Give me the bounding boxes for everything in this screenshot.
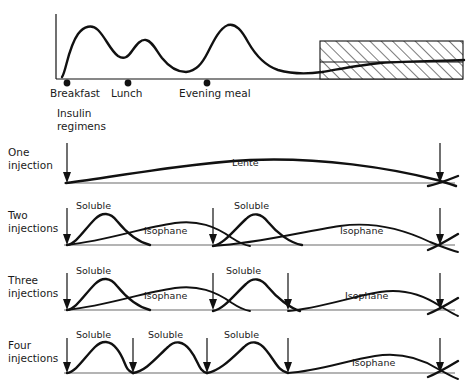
meal-dot-evening-meal	[204, 80, 211, 87]
regimen-label-three-injections-line2: injections	[8, 287, 58, 299]
meal-markers	[64, 80, 211, 87]
insulin-curve-soluble-2a	[67, 214, 150, 245]
regimen-label-two-injections-line1: Two	[7, 209, 28, 221]
regimen-label-three-injections-line1: Three	[7, 274, 38, 286]
regimen-label-four-injections-line1: Four	[8, 339, 32, 351]
injection-arrow-four-injections-1	[63, 338, 71, 373]
section-heading-line1: Insulin	[57, 107, 91, 119]
section-heading-line2: regimens	[57, 120, 106, 132]
meal-dot-breakfast	[64, 80, 71, 87]
insulin-regimens-figure: Breakfast Lunch Evening meal Insulin reg…	[0, 0, 476, 387]
regimen-row-two-injections: Two injections Soluble Isophane Soluble …	[7, 200, 458, 252]
injection-arrow-one-injection-2	[436, 143, 444, 183]
insulin-curve-soluble-4a	[67, 342, 133, 373]
insulin-label-isophane-2b: Isophane	[340, 225, 383, 236]
section-heading-insulin-regimens: Insulin regimens	[57, 107, 106, 132]
injection-arrow-three-injections-1	[63, 273, 71, 310]
insulin-curve-soluble-4c	[207, 342, 288, 373]
regimen-label-one-injection-line1: One	[8, 146, 29, 158]
insulin-label-isophane-3a: Isophane	[144, 290, 187, 301]
injection-arrow-one-injection-1	[63, 143, 71, 183]
insulin-label-isophane-2a: Isophane	[144, 225, 187, 236]
insulin-label-isophane-3b: Isophane	[345, 290, 388, 301]
regimen-label-two-injections-line2: injections	[8, 222, 58, 234]
insulin-label-lente: Lente	[232, 157, 259, 168]
meal-label-breakfast: Breakfast	[50, 87, 100, 99]
insulin-curve-soluble-3a	[67, 279, 150, 310]
regimen-row-four-injections: Four injections Soluble Soluble	[8, 329, 458, 379]
insulin-label-soluble-3a: Soluble	[76, 265, 111, 276]
insulin-label-isophane-4: Isophane	[352, 357, 395, 368]
insulin-label-soluble-4b: Soluble	[148, 329, 183, 340]
injection-arrow-four-injections-4	[284, 338, 292, 373]
insulin-label-soluble-2b: Soluble	[234, 200, 269, 211]
injection-arrow-two-injections-1	[63, 208, 71, 245]
insulin-curve-soluble-4b	[133, 342, 207, 373]
insulin-label-soluble-4a: Soluble	[76, 329, 111, 340]
regimen-row-one-injection: One injection Lente	[8, 143, 458, 186]
regimen-row-three-injections: Three injections Soluble Isophane Solubl…	[7, 265, 458, 316]
insulin-label-soluble-2a: Soluble	[76, 200, 111, 211]
regimen-label-four-injections-line2: injections	[8, 352, 58, 364]
meal-label-evening-meal: Evening meal	[179, 87, 251, 99]
injection-arrow-two-injections-3	[436, 208, 444, 245]
insulin-curve-lente	[66, 160, 456, 186]
injection-arrow-four-injections-3	[203, 338, 211, 373]
physiological-insulin-chart: Breakfast Lunch Evening meal	[50, 14, 464, 99]
meal-dot-lunch	[125, 80, 132, 87]
injection-arrow-four-injections-2	[129, 338, 137, 373]
meal-label-lunch: Lunch	[111, 87, 142, 99]
insulin-label-soluble-4c: Soluble	[224, 329, 259, 340]
regimen-label-one-injection-line2: injection	[8, 159, 53, 171]
insulin-curve-isophane-2b	[213, 225, 458, 252]
insulin-label-soluble-3b: Soluble	[226, 265, 261, 276]
